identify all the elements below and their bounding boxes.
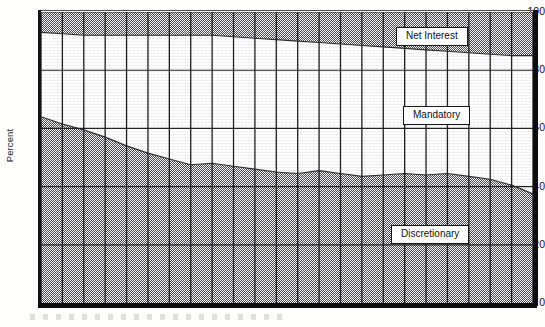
y-axis-line [38, 10, 41, 306]
plot-top-edge [41, 10, 533, 11]
band-label-net-interest: Net Interest [396, 27, 468, 46]
stacked-area-chart: Percent 100 80 60 40 20 0 Net Interest M [0, 0, 545, 327]
x-axis-line [38, 303, 537, 308]
plot-svg [41, 12, 533, 303]
scan-edge-artifact [30, 314, 290, 320]
y-axis-label: Percent [4, 116, 15, 176]
band-label-mandatory: Mandatory [403, 106, 470, 125]
plot-area [41, 12, 533, 303]
plot-right-border [533, 10, 538, 306]
band-label-discretionary: Discretionary [391, 225, 469, 244]
